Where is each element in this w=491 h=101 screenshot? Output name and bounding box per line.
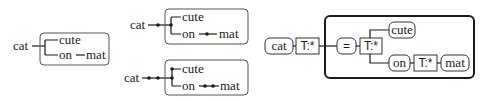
node-on: on — [182, 26, 196, 41]
junction-dot — [211, 84, 215, 88]
eq-node: = — [343, 39, 350, 53]
panel-1-plain-tree: cat cute on mat — [13, 32, 109, 65]
node-on: on — [393, 55, 407, 70]
node-mat: mat — [86, 47, 106, 62]
junction-dot — [156, 76, 160, 80]
branch — [45, 40, 58, 55]
node-cute: cute — [182, 9, 204, 24]
junction-dot — [156, 23, 160, 27]
node-mat: mat — [220, 78, 240, 93]
node-cat: cat — [271, 38, 287, 53]
node-cat: cat — [130, 17, 146, 32]
node-cute: cute — [391, 22, 413, 37]
tree-diagrams: cat cute on mat cat cute on mat cat cute… — [0, 0, 491, 101]
node-mat: mat — [219, 26, 239, 41]
panel-3-typed-tree: cat T:* = T:* cute on T:* mat — [265, 16, 474, 78]
node-mat: mat — [445, 55, 465, 70]
type-label: T:* — [364, 39, 378, 53]
node-cute: cute — [182, 61, 204, 76]
panel-2-top-tree: cat cute on mat — [130, 9, 248, 44]
node-cute: cute — [59, 32, 81, 47]
node-on: on — [182, 78, 196, 93]
node-on: on — [59, 47, 73, 62]
junction-dot — [205, 32, 209, 36]
type-label: T:* — [418, 56, 432, 70]
panel-2-bottom-tree: cat cute on mat — [124, 60, 248, 95]
type-label: T:* — [300, 39, 314, 53]
junction-dot — [203, 84, 207, 88]
junction-dot — [147, 76, 151, 80]
node-cat: cat — [124, 70, 140, 85]
node-cat: cat — [13, 38, 29, 53]
